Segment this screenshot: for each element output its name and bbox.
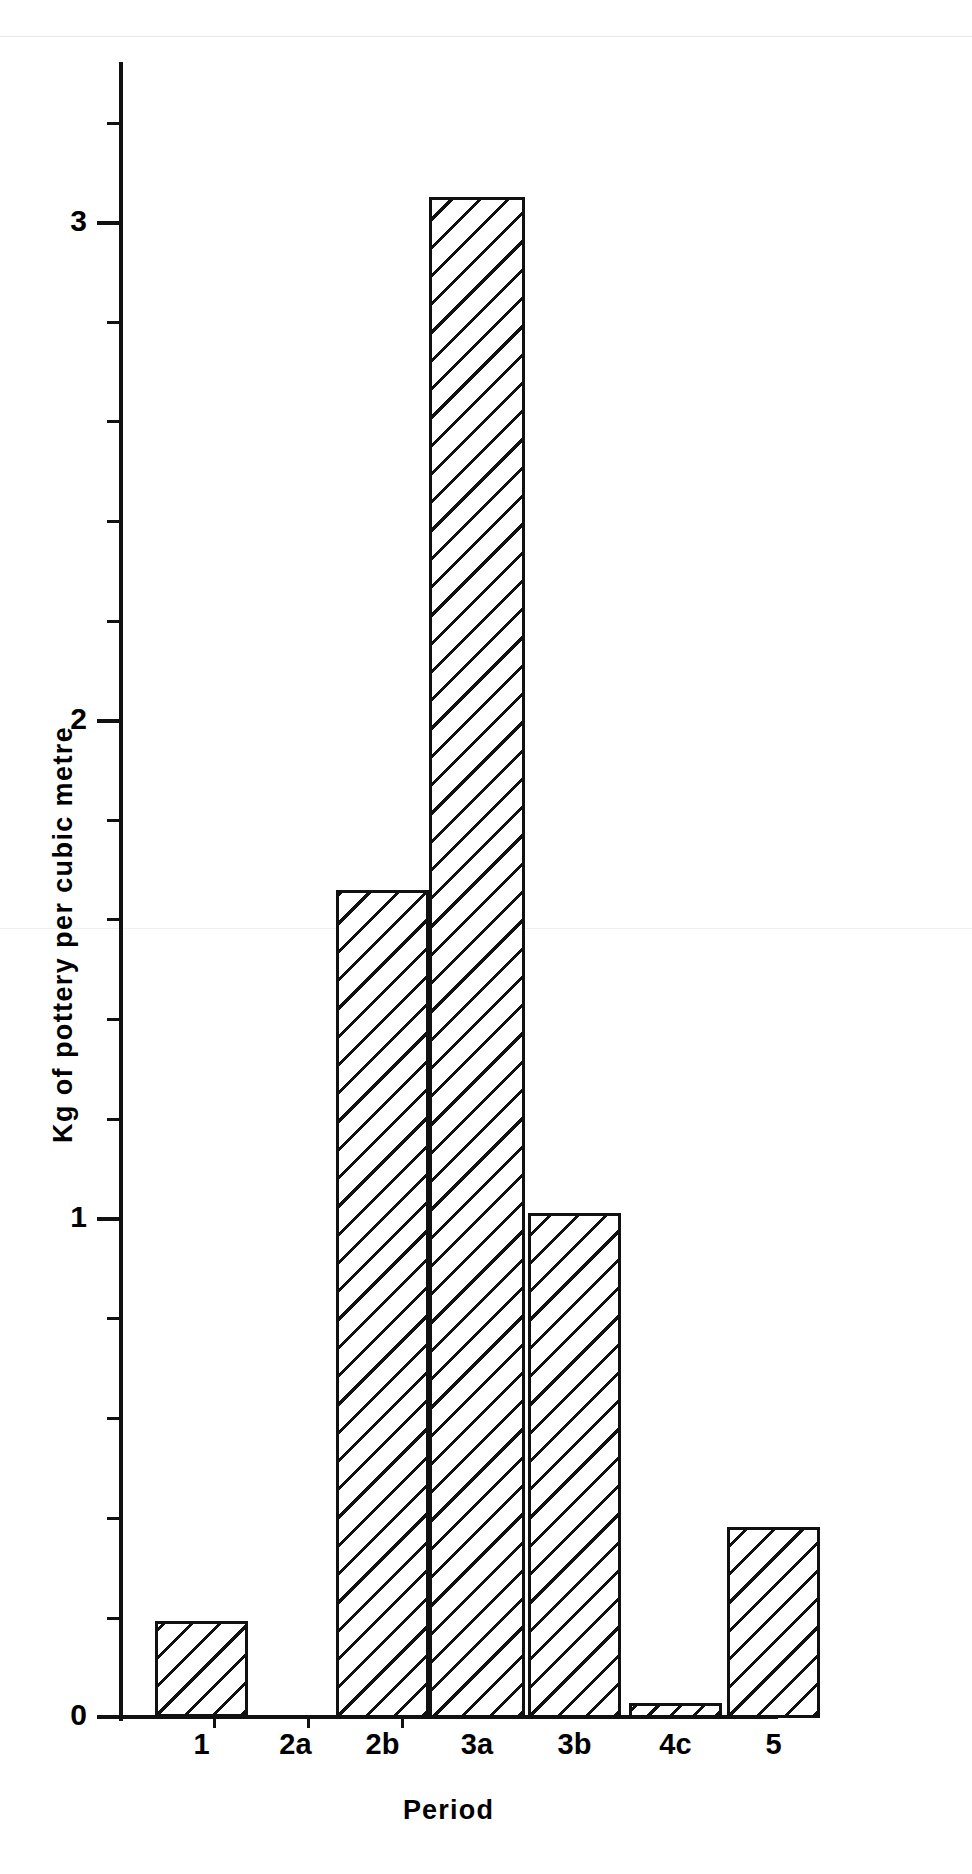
bar-period-4c	[629, 1703, 722, 1718]
x-tick	[213, 1719, 216, 1728]
x-tick-label-3b: 3b	[528, 1730, 621, 1759]
y-tick-minor	[107, 520, 119, 523]
bar-period-2b	[336, 890, 429, 1718]
x-tick	[307, 1719, 310, 1728]
y-tick-minor	[107, 918, 119, 921]
x-tick-label-5: 5	[727, 1730, 820, 1759]
y-tick-minor	[107, 122, 119, 125]
chart-page: 0 1 2 3 1 2a 2b 3a 3b 4c 5 Kg of p	[0, 0, 972, 1874]
y-tick-minor	[107, 620, 119, 623]
y-tick-minor	[107, 1018, 119, 1021]
y-tick-minor	[107, 420, 119, 423]
y-axis-line	[119, 62, 123, 1721]
y-tick-label-0: 0	[47, 1700, 87, 1730]
bar-period-3a	[429, 197, 525, 1718]
y-tick-label-3: 3	[47, 206, 87, 236]
y-tick-major-1	[97, 1217, 119, 1221]
x-tick-label-3a: 3a	[429, 1730, 525, 1759]
y-tick-minor	[107, 1617, 119, 1620]
y-tick-minor	[107, 819, 119, 822]
x-tick-label-4c: 4c	[629, 1730, 722, 1759]
y-tick-minor	[107, 1517, 119, 1520]
bar-period-5	[727, 1527, 820, 1718]
x-tick	[401, 1719, 404, 1728]
y-tick-minor	[107, 1317, 119, 1320]
y-tick-major-0	[97, 1715, 119, 1719]
x-axis-title: Period	[119, 1795, 778, 1826]
y-tick-major-3	[97, 221, 119, 225]
y-axis-title: Kg of pottery per cubic metre	[40, 583, 86, 1143]
x-tick-label-1: 1	[155, 1730, 248, 1759]
y-tick-label-1: 1	[47, 1202, 87, 1232]
bar-period-1	[155, 1621, 248, 1717]
x-tick-label-2a: 2a	[249, 1730, 342, 1759]
x-tick-label-2b: 2b	[336, 1730, 429, 1759]
y-tick-major-2	[97, 719, 119, 723]
bar-period-3b	[528, 1213, 621, 1718]
y-tick-minor	[107, 1118, 119, 1121]
y-tick-minor	[107, 321, 119, 324]
bar-chart-plot-area: 0 1 2 3 1 2a 2b 3a 3b 4c 5 Kg of p	[0, 0, 972, 1874]
y-tick-minor	[107, 1417, 119, 1420]
